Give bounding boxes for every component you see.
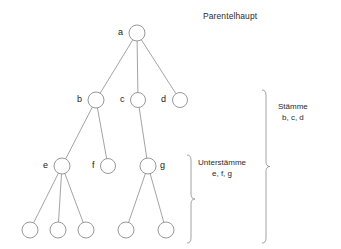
node-label-c: c — [120, 95, 125, 104]
node-label-d: d — [161, 95, 166, 104]
tree-edge — [139, 107, 147, 158]
tree-node-c[interactable] — [131, 93, 146, 108]
brace-label-title-staemme: Stämme — [278, 102, 308, 111]
nodes-layer — [22, 25, 188, 238]
tree-edge — [97, 108, 106, 159]
brace-label-title-unterstaemme: Unterstämme — [198, 158, 246, 167]
tree-node-g2[interactable] — [158, 222, 174, 238]
tree-edge — [129, 174, 146, 223]
brace-label-members-staemme: b, c, d — [278, 113, 308, 124]
brace-label-members-unterstaemme: e, f, g — [198, 169, 246, 180]
tree-node-e2[interactable] — [50, 222, 66, 238]
tree-graphics — [0, 0, 341, 249]
node-label-g: g — [160, 161, 165, 170]
node-label-f: f — [92, 161, 95, 170]
diagram-title: Parentelhaupt — [203, 11, 257, 21]
node-label-e: e — [43, 161, 48, 170]
tree-node-b[interactable] — [88, 92, 104, 108]
node-label-a: a — [118, 28, 123, 37]
node-label-b: b — [77, 95, 82, 104]
tree-edge — [65, 173, 83, 222]
diagram-canvas: Parentelhaupt abcdefg Unterstämmee, f, g… — [0, 0, 341, 249]
tree-node-d[interactable] — [173, 93, 188, 108]
tree-edge — [137, 41, 138, 93]
brace-staemme — [262, 90, 270, 243]
tree-edge — [59, 174, 62, 222]
tree-edge — [66, 107, 93, 159]
tree-node-e3[interactable] — [78, 222, 94, 238]
tree-node-e1[interactable] — [22, 222, 38, 238]
tree-node-g[interactable] — [140, 158, 156, 174]
tree-node-e[interactable] — [54, 158, 70, 174]
tree-node-g1[interactable] — [118, 222, 134, 238]
tree-edge — [141, 40, 176, 94]
brace-label-staemme: Stämmeb, c, d — [278, 102, 308, 124]
tree-edge — [34, 173, 59, 223]
edges-layer — [34, 40, 176, 223]
brace-unterstaemme — [187, 155, 195, 243]
tree-node-a[interactable] — [129, 25, 145, 41]
tree-edge — [150, 174, 164, 223]
tree-edge — [100, 40, 133, 93]
tree-node-f[interactable] — [101, 159, 116, 174]
brace-label-unterstaemme: Unterstämmee, f, g — [198, 158, 246, 180]
